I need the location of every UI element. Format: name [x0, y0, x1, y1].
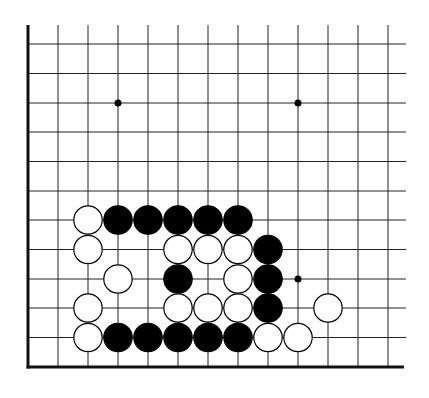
white-stone	[254, 323, 282, 351]
white-stone	[74, 235, 102, 263]
white-stone	[224, 294, 252, 322]
white-stone	[74, 206, 102, 234]
black-stone	[254, 235, 282, 263]
white-stone	[164, 294, 192, 322]
star-point	[115, 100, 122, 107]
white-stone	[194, 235, 222, 263]
white-stone	[224, 235, 252, 263]
star-point	[295, 276, 302, 283]
black-stone	[254, 294, 282, 322]
black-stone	[194, 206, 222, 234]
black-stone	[134, 323, 162, 351]
white-stone	[284, 323, 312, 351]
go-board	[0, 0, 429, 398]
white-stone	[194, 294, 222, 322]
black-stone	[104, 206, 132, 234]
black-stone	[224, 323, 252, 351]
white-stone	[314, 294, 342, 322]
white-stone	[74, 294, 102, 322]
black-stone	[224, 206, 252, 234]
black-stone	[134, 206, 162, 234]
black-stone	[194, 323, 222, 351]
white-stone	[104, 265, 132, 293]
white-stone	[74, 323, 102, 351]
star-point	[295, 100, 302, 107]
black-stone	[254, 265, 282, 293]
white-stone	[164, 235, 192, 263]
black-stone	[164, 265, 192, 293]
black-stone	[164, 323, 192, 351]
black-stone	[104, 323, 132, 351]
black-stone	[164, 206, 192, 234]
white-stone	[224, 265, 252, 293]
